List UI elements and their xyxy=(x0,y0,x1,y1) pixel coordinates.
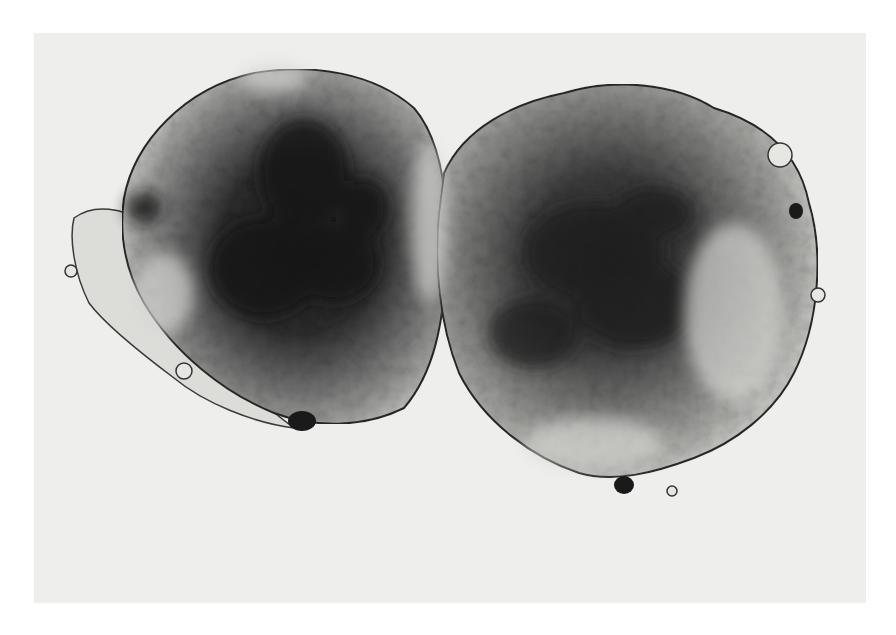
micrograph-photo xyxy=(34,33,866,603)
spheroids-illustration xyxy=(34,33,866,603)
